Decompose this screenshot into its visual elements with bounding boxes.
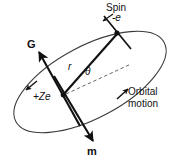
nucleus-charge-label: +Ze (33, 92, 51, 103)
angle-theta-label: θ (85, 67, 90, 78)
angular-momentum-vector-g (39, 52, 80, 126)
electron-charge-label: -e (112, 13, 121, 24)
orbital-motion-label-line1: Orbital (128, 87, 157, 98)
nucleus-marker (61, 93, 66, 98)
orbit-ellipse (0, 11, 181, 153)
figure-canvas (0, 0, 181, 165)
angle-reference-dashed-line (66, 64, 131, 94)
magnetic-moment-label: m (87, 146, 97, 158)
angular-momentum-label: G (27, 39, 36, 51)
atomic-orbit-figure: Spin -e G r θ +Ze Orbital motion m (0, 0, 181, 165)
orbital-motion-arrow-icon (117, 89, 128, 99)
radius-label: r (68, 62, 71, 73)
orbital-motion-label-line2: motion (128, 99, 158, 110)
